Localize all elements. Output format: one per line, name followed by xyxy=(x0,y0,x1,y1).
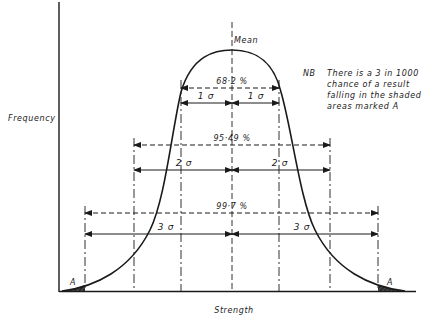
band-1sigma-left-label: 1 σ xyxy=(198,91,215,101)
tail-label-right: A xyxy=(386,278,393,287)
note-line-4: areas marked A xyxy=(327,102,399,111)
band-2sigma-left-label: 2 σ xyxy=(176,158,193,168)
mean-label: Mean xyxy=(234,36,258,45)
note-line-1: There is a 3 in 1000 xyxy=(327,69,419,78)
note-line-3: falling in the shaded xyxy=(327,91,422,100)
band-68-percent-label: 68·2 % xyxy=(216,77,248,86)
y-axis-label: Frequency xyxy=(8,114,56,123)
band-1sigma-right-label: 1 σ xyxy=(248,91,265,101)
band-3sigma-left-label: 3 σ xyxy=(158,222,175,232)
note-line-2: chance of a result xyxy=(327,80,410,89)
note-block: NB There is a 3 in 1000 chance of a resu… xyxy=(303,69,422,111)
normal-distribution-diagram: Mean 68·2 % 1 σ 1 σ 95·49 % 2 σ 2 σ 99·7… xyxy=(0,0,434,325)
band-3sigma-right-label: 3 σ xyxy=(294,222,311,232)
band-99-percent-label: 99·7 % xyxy=(216,202,248,211)
band-2sigma-right-label: 2 σ xyxy=(272,158,289,168)
x-axis-label: Strength xyxy=(214,306,254,315)
note-prefix: NB xyxy=(303,69,316,78)
tail-label-left: A xyxy=(69,278,76,287)
band-95-percent-label: 95·49 % xyxy=(213,134,250,143)
